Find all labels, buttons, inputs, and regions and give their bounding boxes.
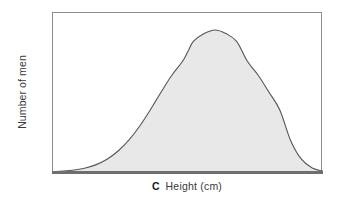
y-axis-label: Number of men: [14, 12, 30, 172]
x-axis-baseline: [52, 171, 323, 174]
distribution-figure: Number of men C Height (cm): [0, 0, 339, 200]
normal-distribution-curve: [53, 13, 323, 173]
x-axis-label: Height (cm): [166, 180, 222, 192]
panel-letter: C: [152, 180, 160, 192]
x-axis-caption: C Height (cm): [52, 178, 322, 194]
plot-area: [52, 12, 322, 172]
